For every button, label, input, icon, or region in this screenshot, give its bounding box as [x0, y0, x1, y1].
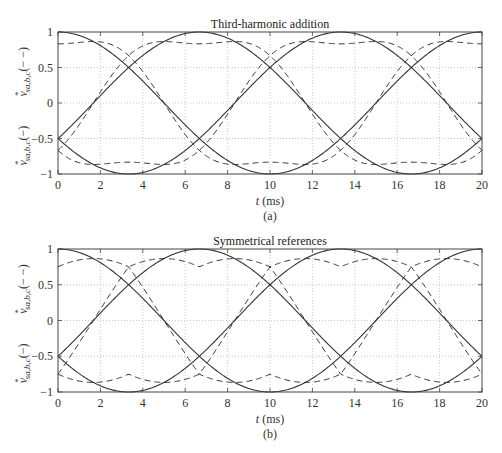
chart-title: Symmetrical references — [213, 234, 327, 248]
y-axis-label: v*sa,b,c(− −) — [13, 264, 32, 313]
y-tick-label: 1 — [47, 25, 53, 39]
panel-label: (b) — [263, 427, 277, 441]
figure: 02468101214161820−1−0.500.51Third-harmon… — [0, 0, 502, 453]
y-tick-label: 0.5 — [38, 278, 53, 292]
x-tick-label: 6 — [182, 396, 188, 410]
x-tick-label: 18 — [434, 396, 446, 410]
x-tick-label: 2 — [97, 178, 103, 192]
y-tick-label: −1 — [40, 167, 53, 181]
x-tick-label: 0 — [55, 396, 61, 410]
y-tick-label: −0.5 — [31, 349, 53, 363]
x-tick-label: 8 — [225, 178, 231, 192]
x-tick-label: 20 — [476, 396, 488, 410]
x-tick-label: 0 — [55, 178, 61, 192]
x-tick-label: 18 — [434, 178, 446, 192]
y-axis-label: v*sa,b,c(− −) — [13, 47, 32, 96]
x-tick-label: 8 — [225, 396, 231, 410]
x-tick-label: 10 — [264, 178, 276, 192]
x-tick-label: 4 — [140, 178, 146, 192]
y-tick-label: −1 — [40, 385, 53, 399]
y-tick-label: 0 — [47, 96, 53, 110]
x-tick-label: 6 — [182, 178, 188, 192]
y-tick-label: −0.5 — [31, 132, 53, 146]
x-tick-label: 16 — [391, 178, 403, 192]
x-axis-label: t (ms) — [256, 412, 284, 426]
y-tick-label: 1 — [47, 242, 53, 256]
x-tick-label: 12 — [306, 396, 318, 410]
x-tick-label: 4 — [140, 396, 146, 410]
panel-label: (a) — [263, 209, 276, 223]
x-tick-label: 10 — [264, 396, 276, 410]
x-tick-label: 12 — [306, 178, 318, 192]
chart-panel-a: 02468101214161820−1−0.500.51Third-harmon… — [13, 17, 488, 223]
chart-panel-b: 02468101214161820−1−0.500.51Symmetrical … — [13, 234, 488, 441]
y-axis-label: v*sa,b,c(−) — [13, 126, 32, 166]
x-tick-label: 14 — [349, 396, 361, 410]
chart-title: Third-harmonic addition — [211, 17, 329, 31]
y-tick-label: 0 — [47, 314, 53, 328]
x-tick-label: 20 — [476, 178, 488, 192]
x-tick-label: 2 — [97, 396, 103, 410]
x-axis-label: t (ms) — [256, 194, 284, 208]
y-tick-label: 0.5 — [38, 61, 53, 75]
x-tick-label: 16 — [391, 396, 403, 410]
x-tick-label: 14 — [349, 178, 361, 192]
y-axis-label: v*sa,b,c(−) — [13, 344, 32, 384]
